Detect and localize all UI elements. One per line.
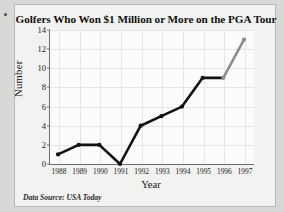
data-point-marker [159,114,163,118]
y-tick-label: 0 [42,159,46,169]
data-point-marker [180,104,184,108]
data-point-marker [77,143,81,147]
page-corner-dot [4,13,7,16]
x-tick-label: 1988 [52,167,67,176]
y-tick-label: 14 [37,25,46,35]
chart-figure: Golfers Who Won $1 Million or More on th… [14,4,276,207]
data-point-marker [242,37,246,41]
data-point-marker [221,76,225,80]
data-point-marker [118,162,122,166]
data-point-marker [139,124,143,128]
y-tick-label: 4 [42,121,46,131]
line-series-highlight-segment [223,40,244,78]
data-point-markers [56,37,246,166]
line-series-main [58,78,223,164]
y-axis-label: Number [13,60,24,97]
line-series-layer [49,30,253,164]
y-tick-label: 10 [37,63,46,73]
x-tick-label: 1994 [176,167,191,176]
x-tick-label: 1997 [238,167,253,176]
x-tick-label: 1996 [217,167,232,176]
x-tick-label: 1995 [196,167,211,176]
data-point-marker [56,152,60,156]
y-tick-label: 8 [42,82,46,92]
x-axis-label: Year [49,179,253,190]
data-point-marker [97,143,101,147]
x-tick-label: 1992 [134,167,149,176]
data-source-note: Data Source: USA Today [23,193,101,202]
x-tick-label: 1993 [155,167,170,176]
y-tick-label: 2 [42,140,46,150]
y-tick-label: 6 [42,102,46,112]
chart-title: Golfers Who Won $1 Million or More on th… [15,13,277,25]
data-point-marker [201,76,205,80]
x-tick-label: 1989 [72,167,87,176]
x-tick-label: 1991 [114,167,129,176]
y-tick-label: 12 [37,44,46,54]
x-tick-label: 1990 [93,167,108,176]
